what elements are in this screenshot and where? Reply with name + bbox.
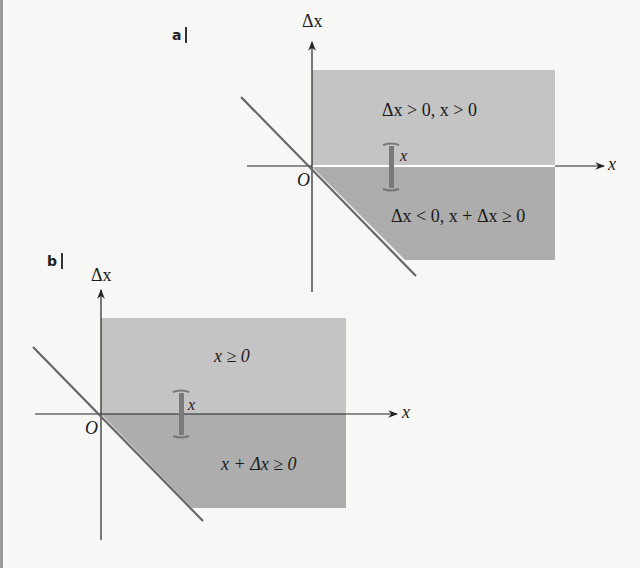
- panel-a-tag: a: [172, 27, 187, 43]
- panel-a-y-axis-label: Δx: [302, 11, 323, 32]
- panel-b-origin-label: O: [85, 418, 98, 439]
- panel-b-region-upper-label: x ≥ 0: [214, 346, 250, 367]
- panel-b-tag-bar: [61, 253, 63, 269]
- panel-a-x-axis-label: x: [608, 154, 616, 175]
- panel-a-tag-bar: [185, 27, 187, 43]
- panel-a-origin-label: O: [297, 170, 310, 191]
- panel-b-x-axis-label: x: [402, 402, 410, 423]
- panel-b-bracket-label: x: [188, 396, 195, 414]
- panel-b-y-axis-label: Δx: [91, 265, 112, 286]
- panel-a-bracket-label: x: [400, 147, 407, 165]
- panel-a: [241, 42, 604, 292]
- panel-a-region-upper-label: Δx > 0, x > 0: [382, 100, 477, 121]
- panel-b: [33, 290, 397, 540]
- panel-a-region-lower-label: Δx < 0, x + Δx ≥ 0: [391, 206, 525, 227]
- panel-a-tag-text: a: [172, 27, 181, 43]
- panel-b-tag-text: b: [47, 253, 57, 269]
- panel-b-region-lower-label: x + Δx ≥ 0: [221, 454, 297, 475]
- panel-b-tag: b: [47, 253, 63, 269]
